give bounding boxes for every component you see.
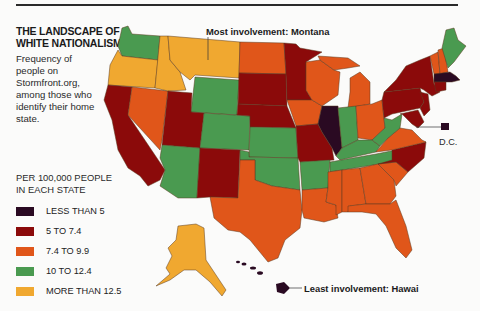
state-KS [249,127,298,158]
legend-swatch [16,267,34,276]
state-AZ [160,145,200,198]
state-DE-MD [400,110,424,128]
legend-label: 10 TO 12.4 [46,266,92,276]
legend-item-5-to-7-4: 5 TO 7.4 [16,221,121,241]
dc-label: D.C. [439,137,457,147]
legend-label: MORE THAN 12.5 [46,286,121,296]
legend-label: 5 TO 7.4 [46,226,81,236]
legend-item-7-4-to-9-9: 7.4 TO 9.9 [16,241,121,261]
legend-heading-line-2: IN EACH STATE [16,184,112,196]
legend-swatch [16,287,34,296]
legend-heading: PER 100,000 PEOPLE IN EACH STATE [16,172,112,196]
most-involvement-label: Most involvement: Montana [206,26,329,37]
least-involvement-label: Least involvement: Hawai [304,283,419,294]
legend-label: 7.4 TO 9.9 [46,246,89,256]
state-SD [238,73,287,106]
legend: LESS THAN 5 5 TO 7.4 7.4 TO 9.9 10 TO 12… [16,201,121,301]
dc-marker [441,123,449,130]
state-WY [191,77,239,115]
state-FL [348,200,412,258]
state-ND [239,42,286,74]
legend-swatch [16,247,34,256]
legend-label: LESS THAN 5 [46,206,105,216]
legend-swatch [16,227,34,236]
state-AK [156,224,226,296]
legend-heading-line-1: PER 100,000 PEOPLE [16,172,112,184]
state-CT [434,82,446,92]
state-AR [300,160,330,190]
state-WA [118,26,160,60]
legend-swatch [16,207,34,216]
legend-item-10-to-12-4: 10 TO 12.4 [16,261,121,281]
state-HI [236,261,290,294]
legend-item-less-than-5: LESS THAN 5 [16,201,121,221]
state-CO [200,113,250,150]
state-MA [434,72,460,82]
state-NM [197,148,240,198]
legend-item-more-than-12-5: MORE THAN 12.5 [16,281,121,301]
